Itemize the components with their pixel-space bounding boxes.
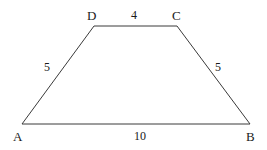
segment-ad <box>22 26 94 124</box>
edge-length-bc: 5 <box>215 61 221 73</box>
vertex-label-b: B <box>246 130 255 143</box>
vertex-label-d: D <box>87 9 96 22</box>
vertex-label-a: A <box>13 130 22 143</box>
vertex-label-c: C <box>172 9 181 22</box>
trapezoid-outline <box>0 0 267 150</box>
edge-length-ad: 5 <box>44 61 50 73</box>
segment-cb <box>177 26 250 124</box>
edge-length-dc: 4 <box>131 9 137 21</box>
geometry-figure: A B C D 10 4 5 5 <box>0 0 267 150</box>
edge-length-ab: 10 <box>134 130 146 142</box>
